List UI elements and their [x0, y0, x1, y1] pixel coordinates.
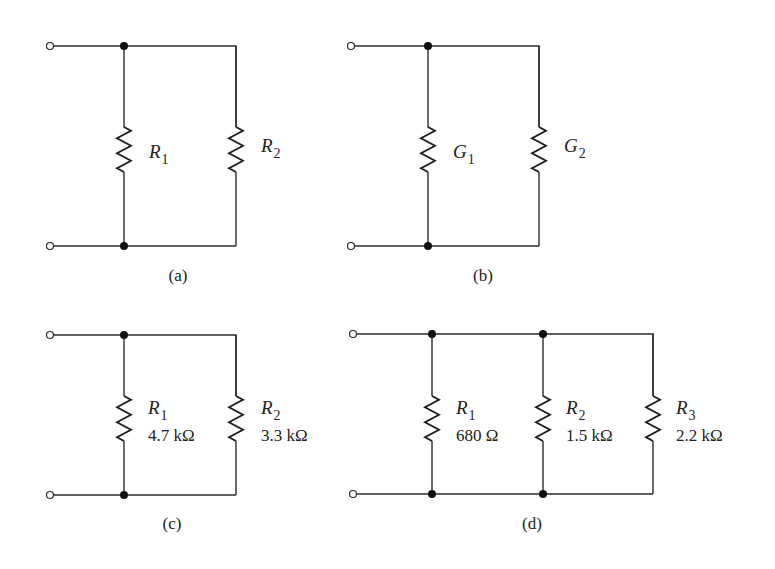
resistor-zigzag-icon [117, 396, 131, 441]
resistor-zigzag-icon [117, 127, 131, 172]
top-rail-wire [50, 335, 236, 396]
terminal-top-icon [47, 332, 54, 339]
resistor-zigzag-icon [229, 396, 243, 441]
component-value: 4.7 kΩ [148, 426, 195, 445]
resistor-zigzag-icon [421, 127, 435, 172]
circuit-b: G1G2(b) [348, 42, 586, 285]
component-value: 680 Ω [456, 426, 498, 445]
junction-dot-icon [120, 331, 128, 339]
junction-dot-icon [539, 490, 547, 498]
junction-dot-icon [428, 490, 436, 498]
junction-dot-icon [120, 242, 128, 250]
figure-caption: (d) [522, 514, 542, 533]
top-rail-wire [353, 334, 653, 396]
resistor-zigzag-icon [229, 127, 243, 172]
circuit-d: R1680 ΩR21.5 kΩR32.2 kΩ(d) [350, 330, 723, 533]
circuit-c: R14.7 kΩR23.3 kΩ(c) [47, 331, 308, 533]
resistor-r2: R21.5 kΩ [536, 334, 613, 494]
figure-caption: (c) [163, 514, 182, 533]
component-label: R3 [675, 397, 696, 423]
top-rail-wire [351, 46, 539, 127]
resistor-r1: R14.7 kΩ [117, 335, 195, 495]
component-value: 3.3 kΩ [261, 426, 308, 445]
junction-dot-icon [120, 42, 128, 50]
resistor-r1: R1 [117, 46, 169, 246]
terminal-top-icon [350, 331, 357, 338]
resistor-r1: R1680 Ω [425, 334, 498, 494]
resistor-g1: G1 [421, 46, 475, 246]
junction-dot-icon [428, 330, 436, 338]
terminal-top-icon [47, 43, 54, 50]
terminal-top-icon [348, 43, 355, 50]
resistor-r2: R2 [229, 46, 281, 246]
terminal-bottom-icon [348, 243, 355, 250]
figure-caption: (a) [169, 266, 188, 285]
resistor-zigzag-icon [425, 396, 439, 441]
terminal-bottom-icon [350, 491, 357, 498]
terminal-bottom-icon [47, 492, 54, 499]
component-label: R2 [260, 397, 281, 423]
resistor-zigzag-icon [536, 396, 550, 441]
circuit-a: R1R2(a) [47, 42, 281, 285]
parallel-circuits-figure: R1R2(a)G1G2(b)R14.7 kΩR23.3 kΩ(c)R1680 Ω… [0, 0, 775, 569]
component-value: 1.5 kΩ [566, 426, 613, 445]
component-label: R1 [147, 397, 168, 423]
component-label: R2 [260, 135, 281, 161]
component-value: 2.2 kΩ [676, 426, 723, 445]
resistor-g2: G2 [532, 46, 586, 246]
component-label: R2 [565, 397, 586, 423]
top-rail-wire [50, 46, 236, 127]
junction-dot-icon [424, 42, 432, 50]
junction-dot-icon [539, 330, 547, 338]
resistor-r2: R23.3 kΩ [229, 335, 308, 495]
terminal-bottom-icon [47, 243, 54, 250]
component-label: R1 [148, 141, 169, 167]
component-label: G2 [564, 135, 586, 161]
junction-dot-icon [424, 242, 432, 250]
junction-dot-icon [120, 491, 128, 499]
component-label: R1 [455, 397, 476, 423]
resistor-zigzag-icon [532, 127, 546, 172]
component-label: G1 [453, 141, 475, 167]
resistor-zigzag-icon [646, 396, 660, 441]
figure-caption: (b) [473, 266, 493, 285]
resistor-r3: R32.2 kΩ [646, 334, 723, 494]
